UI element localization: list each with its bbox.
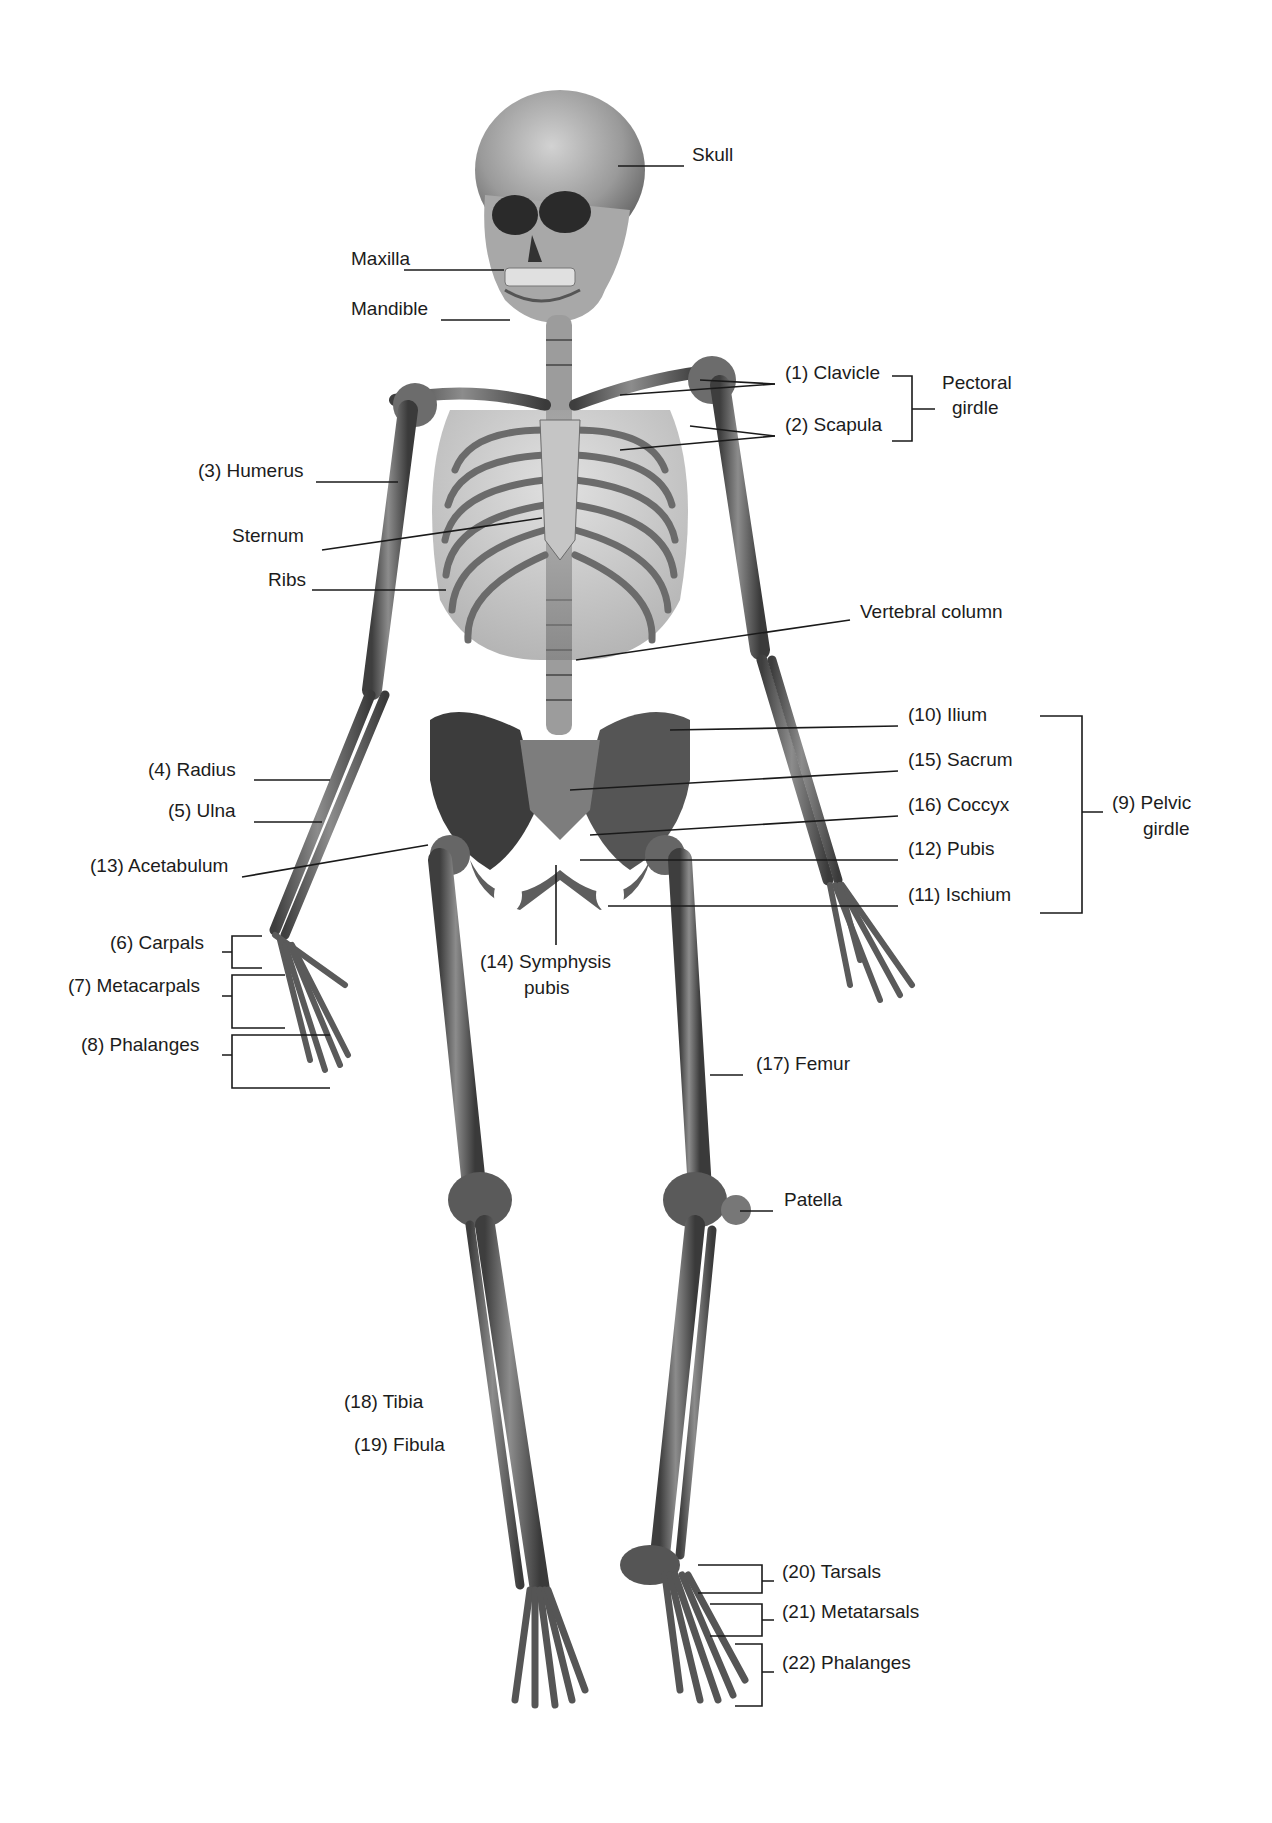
bracket-tarsals bbox=[698, 1565, 774, 1593]
label-acetabulum: (13) Acetabulum bbox=[90, 855, 228, 877]
label-pectoral-girdle-1: Pectoral bbox=[942, 372, 1012, 394]
label-sternum: Sternum bbox=[232, 525, 304, 547]
label-carpals: (6) Carpals bbox=[110, 932, 204, 954]
label-femur: (17) Femur bbox=[756, 1053, 850, 1075]
label-symphysis-1: (14) Symphysis bbox=[480, 951, 611, 973]
label-tarsals: (20) Tarsals bbox=[782, 1561, 881, 1583]
label-symphysis-2: pubis bbox=[524, 977, 569, 999]
skeleton-diagram: SkullMaxillaMandible(1) Clavicle(2) Scap… bbox=[0, 0, 1272, 1823]
label-pelvic-girdle-1: (9) Pelvic bbox=[1112, 792, 1191, 814]
label-maxilla: Maxilla bbox=[351, 248, 410, 270]
label-ischium: (11) Ischium bbox=[908, 884, 1011, 906]
pelvis-shape bbox=[430, 712, 690, 913]
bracket-pectoral bbox=[892, 376, 935, 441]
label-ribs: Ribs bbox=[268, 569, 306, 591]
bracket-carpals bbox=[222, 936, 262, 968]
label-fibula: (19) Fibula bbox=[354, 1434, 445, 1456]
label-ulna: (5) Ulna bbox=[168, 800, 236, 822]
label-vertebral-column: Vertebral column bbox=[860, 601, 1003, 623]
label-ilium: (10) Ilium bbox=[908, 704, 987, 726]
label-radius: (4) Radius bbox=[148, 759, 236, 781]
label-metatarsals: (21) Metatarsals bbox=[782, 1601, 919, 1623]
label-tibia: (18) Tibia bbox=[344, 1391, 423, 1413]
label-mandible: Mandible bbox=[351, 298, 428, 320]
label-clavicle: (1) Clavicle bbox=[785, 362, 880, 384]
label-phalanges-hand: (8) Phalanges bbox=[81, 1034, 199, 1056]
bracket-pelvic bbox=[1040, 716, 1103, 913]
bracket-metacarpals bbox=[222, 975, 285, 1028]
label-pubis: (12) Pubis bbox=[908, 838, 995, 860]
label-phalanges-foot: (22) Phalanges bbox=[782, 1652, 911, 1674]
label-scapula: (2) Scapula bbox=[785, 414, 882, 436]
label-patella: Patella bbox=[784, 1189, 842, 1211]
leader-line bbox=[242, 845, 428, 877]
skeleton-illustration bbox=[0, 0, 1272, 1823]
label-pectoral-girdle-2: girdle bbox=[952, 397, 998, 419]
label-coccyx: (16) Coccyx bbox=[908, 794, 1009, 816]
label-humerus: (3) Humerus bbox=[198, 460, 304, 482]
label-sacrum: (15) Sacrum bbox=[908, 749, 1013, 771]
skull-shape bbox=[475, 90, 645, 322]
label-skull: Skull bbox=[692, 144, 733, 166]
label-pelvic-girdle-2: girdle bbox=[1143, 818, 1189, 840]
label-metacarpals: (7) Metacarpals bbox=[68, 975, 200, 997]
